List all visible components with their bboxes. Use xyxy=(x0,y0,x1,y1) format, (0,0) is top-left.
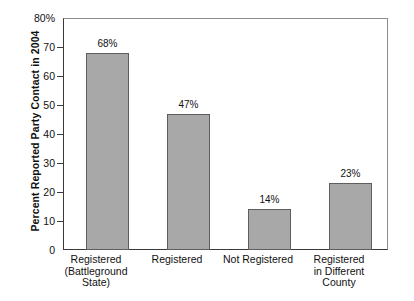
y-axis-label: 60 xyxy=(5,70,55,82)
x-axis-label-line: Registered xyxy=(289,254,389,266)
bar xyxy=(329,183,372,250)
bar xyxy=(248,209,291,250)
bar-value-label: 68% xyxy=(86,38,129,49)
bar-value-label: 47% xyxy=(167,99,210,110)
y-axis-label: 50 xyxy=(5,99,55,111)
bar xyxy=(86,53,129,250)
bar-value-label: 23% xyxy=(329,168,372,179)
y-axis-label: 30 xyxy=(5,157,55,169)
bar-value-label: 14% xyxy=(248,194,291,205)
y-axis-label: 20 xyxy=(5,186,55,198)
bars-layer: 68% 47% 14% 23% xyxy=(63,18,388,250)
y-axis-label: 10 xyxy=(5,215,55,227)
y-axis-label: 70 xyxy=(5,41,55,53)
x-axis-label-line: State) xyxy=(46,277,146,289)
y-axis-label: 40 xyxy=(5,128,55,140)
y-axis-label: 80% xyxy=(5,12,55,24)
bar xyxy=(167,114,210,250)
bar-chart: Percent Reported Party Contact in 2004 8… xyxy=(0,0,414,301)
x-axis-label-line: County xyxy=(289,277,389,289)
x-axis-label-3: Registered in Different County xyxy=(289,254,389,289)
